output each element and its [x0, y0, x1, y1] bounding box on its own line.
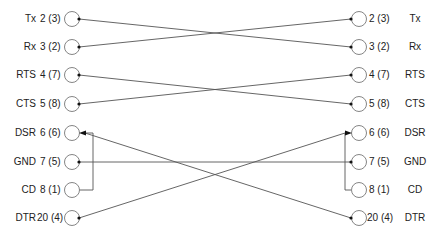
left-signal-name: RTS — [0, 69, 36, 81]
left-signal-name: DTR — [0, 212, 36, 224]
pin-circle-right-cts — [352, 97, 367, 112]
pin-circle-right-rx — [352, 40, 367, 55]
pin-circle-left-tx — [65, 12, 80, 27]
wire-dsr-dtr — [85, 133, 351, 218]
right-signal-name: CD — [398, 184, 432, 196]
left-signal-name: Tx — [0, 13, 36, 25]
wiring-diagram — [0, 0, 437, 238]
right-pin-number: 2 (3) — [369, 13, 390, 25]
right-signal-name: GND — [398, 156, 432, 168]
right-pin-number: 4 (7) — [369, 69, 390, 81]
pin-circle-right-rts — [352, 68, 367, 83]
left-signal-name: DSR — [0, 127, 36, 139]
right-signal-name: RTS — [398, 69, 432, 81]
right-pin-number: 7 (5) — [369, 156, 390, 168]
right-signal-name: Rx — [398, 41, 432, 53]
right-pin-number: 8 (1) — [369, 184, 390, 196]
pin-circle-right-cd — [352, 183, 367, 198]
pin-circle-left-dsr — [65, 126, 80, 141]
pin-circle-left-cd — [65, 183, 80, 198]
left-signal-name: Rx — [0, 41, 36, 53]
right-pin-number: 20 (4) — [367, 212, 393, 224]
right-pin-number: 6 (6) — [369, 127, 390, 139]
left-pin-number: 3 (2) — [40, 41, 61, 53]
right-pin-number: 5 (8) — [369, 98, 390, 110]
pin-circle-right-dtr — [352, 211, 367, 226]
jumper-left-cd-dsr — [79, 133, 93, 190]
pin-circle-left-rts — [65, 68, 80, 83]
left-pin-number: 8 (1) — [40, 184, 61, 196]
pin-circle-left-rx — [65, 40, 80, 55]
left-pin-number: 4 (7) — [40, 69, 61, 81]
arrowhead-left-dsr — [79, 131, 86, 136]
left-signal-name: GND — [0, 156, 36, 168]
left-pin-number: 20 (4) — [37, 212, 63, 224]
right-signal-name: Tx — [398, 13, 432, 25]
right-signal-name: CTS — [398, 98, 432, 110]
left-pin-number: 2 (3) — [40, 13, 61, 25]
right-signal-name: DTR — [398, 212, 432, 224]
arrowhead-right-dsr — [345, 131, 352, 136]
pin-circle-left-gnd — [65, 155, 80, 170]
left-signal-name: CTS — [0, 98, 36, 110]
pin-circle-right-tx — [352, 12, 367, 27]
left-pin-number: 5 (8) — [40, 98, 61, 110]
pin-circle-left-cts — [65, 97, 80, 112]
pin-circle-right-gnd — [352, 155, 367, 170]
pin-circle-left-dtr — [65, 211, 80, 226]
left-pin-number: 6 (6) — [40, 127, 61, 139]
pin-circle-right-dsr — [352, 126, 367, 141]
left-pin-number: 7 (5) — [40, 156, 61, 168]
left-signal-name: CD — [0, 184, 36, 196]
right-pin-number: 3 (2) — [369, 41, 390, 53]
right-signal-name: DSR — [398, 127, 432, 139]
wire-dtr-dsr — [79, 133, 345, 218]
